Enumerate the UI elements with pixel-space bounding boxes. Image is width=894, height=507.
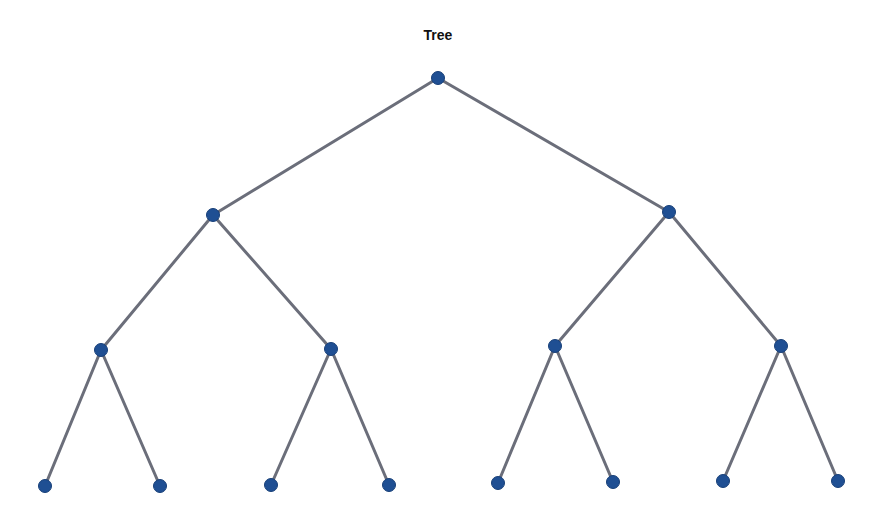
tree-node xyxy=(832,475,845,488)
tree-edge xyxy=(331,349,389,485)
tree-edge xyxy=(723,346,781,481)
tree-edge xyxy=(45,350,101,486)
tree-node xyxy=(154,480,167,493)
tree-node xyxy=(265,479,278,492)
tree-node xyxy=(775,340,788,353)
tree-diagram xyxy=(0,0,894,507)
tree-edge xyxy=(271,349,331,485)
tree-node xyxy=(383,479,396,492)
edges-group xyxy=(45,78,838,486)
tree-edge xyxy=(213,215,331,349)
tree-edge xyxy=(781,346,838,481)
tree-node xyxy=(492,477,505,490)
tree-node xyxy=(717,475,730,488)
tree-edge xyxy=(438,78,669,212)
tree-edge xyxy=(213,78,438,215)
tree-node xyxy=(663,206,676,219)
tree-edge xyxy=(101,215,213,350)
tree-node xyxy=(39,480,52,493)
tree-node xyxy=(325,343,338,356)
tree-edge xyxy=(669,212,781,346)
nodes-group xyxy=(39,72,845,493)
tree-node xyxy=(95,344,108,357)
tree-node xyxy=(432,72,445,85)
tree-edge xyxy=(555,212,669,346)
tree-node xyxy=(607,476,620,489)
tree-edge xyxy=(555,346,613,482)
tree-edge xyxy=(498,346,555,483)
tree-node xyxy=(549,340,562,353)
tree-node xyxy=(207,209,220,222)
tree-edge xyxy=(101,350,160,486)
